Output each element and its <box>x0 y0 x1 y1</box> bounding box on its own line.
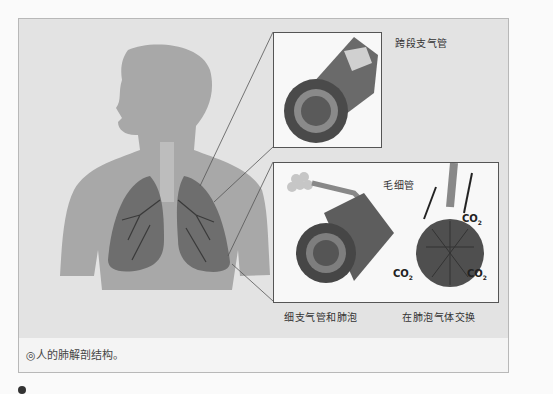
bronchus-cross-section-illustration <box>274 33 381 147</box>
gas-label-co2-left: CO2 <box>393 268 413 281</box>
label-gas-exchange: 在肺泡气体交换 <box>402 309 476 324</box>
gas-label-co2-right: CO2 <box>467 268 487 281</box>
caption-text: 人的肺解剖结构。 <box>36 349 124 362</box>
label-capillary: 毛细管 <box>383 177 415 192</box>
label-bronchiole-alveoli: 细支气管和肺泡 <box>284 309 358 324</box>
caption-marker-icon: ◎ <box>26 349 36 362</box>
figure-caption: ◎人的肺解剖结构。 <box>26 346 124 362</box>
inset-segmental-bronchus <box>273 32 382 148</box>
gas-label-co2-top: CO2 <box>462 213 482 226</box>
bullet-dot-icon <box>18 386 26 394</box>
label-segmental-bronchus: 跨段支气管 <box>395 35 448 50</box>
